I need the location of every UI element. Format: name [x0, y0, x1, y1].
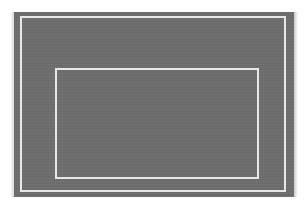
gray-panel [14, 12, 294, 197]
inner-frame [55, 68, 259, 179]
panel-edge-right [294, 12, 298, 197]
